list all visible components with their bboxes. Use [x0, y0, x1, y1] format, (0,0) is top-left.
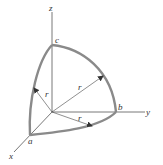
point-a-label: a [28, 136, 33, 146]
arc-c-b [52, 45, 116, 112]
point-c-label: c [55, 35, 59, 45]
y-axis-label: y [145, 107, 150, 117]
x-axis [14, 112, 52, 152]
arc-c-a [30, 45, 52, 135]
arc-a-b [30, 112, 116, 135]
z-axis-label: z [48, 3, 53, 13]
diagram-canvas: z y x c b a r r r [0, 0, 163, 165]
point-b-label: b [118, 102, 123, 112]
radius-arrow-1 [34, 88, 52, 112]
radius-label-3: r [78, 113, 82, 123]
radius-label-2: r [78, 82, 82, 92]
radius-label-1: r [45, 89, 49, 99]
radius-arrow-3 [52, 112, 92, 126]
x-axis-label: x [8, 151, 13, 161]
octant-sphere-diagram: z y x c b a r r r [0, 0, 163, 165]
